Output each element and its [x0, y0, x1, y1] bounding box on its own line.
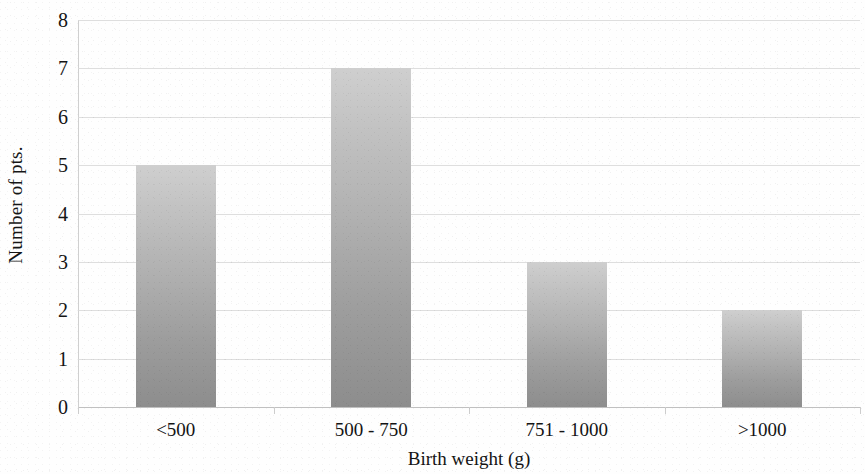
y-axis-tick-label: 0 — [10, 397, 68, 417]
y-axis-tick-labels: 876543210 — [0, 20, 68, 408]
x-axis-tick — [860, 407, 861, 414]
x-axis-tick-label: <500 — [78, 417, 274, 443]
y-axis-tick-label: 1 — [10, 349, 68, 369]
bar[interactable] — [722, 310, 802, 407]
x-axis-tick-label: 751 - 1000 — [469, 417, 665, 443]
x-axis-tick — [78, 407, 79, 414]
x-axis-tick-label: >1000 — [665, 417, 861, 443]
bar-slot — [78, 20, 274, 407]
y-axis-tick-label: 7 — [10, 58, 68, 78]
bar-chart-figure: Number of pts. 876543210 <500500 - 75075… — [0, 0, 865, 474]
y-axis-tick-label: 4 — [10, 204, 68, 224]
y-axis-tick-label: 2 — [10, 300, 68, 320]
bar[interactable] — [331, 68, 411, 407]
x-axis-tick — [665, 407, 666, 414]
x-axis-tick-labels: <500500 - 750751 - 1000>1000 — [78, 417, 860, 447]
bar-slot — [665, 20, 861, 407]
y-axis-tick-label: 3 — [10, 252, 68, 272]
x-axis-tick — [469, 407, 470, 414]
y-axis-tick-label: 6 — [10, 107, 68, 127]
y-axis-tick-label: 8 — [10, 10, 68, 30]
x-axis-tick-label: 500 - 750 — [274, 417, 470, 443]
bar[interactable] — [136, 165, 216, 407]
plot-area — [78, 20, 860, 407]
bar-slot — [469, 20, 665, 407]
bar-slot — [274, 20, 470, 407]
bar[interactable] — [527, 262, 607, 407]
y-axis-tick-label: 5 — [10, 155, 68, 175]
x-axis-tick — [274, 407, 275, 414]
x-axis-title: Birth weight (g) — [78, 448, 860, 470]
